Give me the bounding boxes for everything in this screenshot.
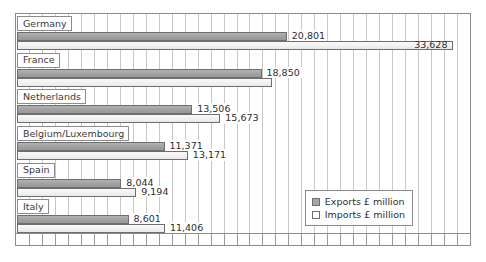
axis-tick xyxy=(55,234,56,245)
axis-tick xyxy=(431,234,432,245)
bar-exports xyxy=(17,32,287,41)
bar-chart: Germany20,80133,628France18,850Netherlan… xyxy=(0,0,486,262)
axis-tick xyxy=(262,234,263,245)
axis-tick xyxy=(159,234,160,245)
bar-imports xyxy=(17,151,188,160)
legend-swatch-imports-icon xyxy=(312,211,320,219)
bar-exports xyxy=(17,215,129,224)
axis-tick xyxy=(249,234,250,245)
legend-swatch-exports-icon xyxy=(312,198,320,206)
value-label-imports: 13,171 xyxy=(190,149,228,161)
bar-exports xyxy=(17,105,192,114)
axis-tick xyxy=(379,234,380,245)
value-label-imports: 9,194 xyxy=(138,186,170,198)
legend-label-imports: Imports £ million xyxy=(325,210,405,220)
legend-item-exports: Exports £ million xyxy=(312,195,405,208)
axis-tick xyxy=(457,234,458,245)
legend-item-imports: Imports £ million xyxy=(312,208,405,221)
axis-tick xyxy=(120,234,121,245)
bar-group: France18,850 xyxy=(16,51,470,88)
axis-tick xyxy=(340,234,341,245)
axis-tick xyxy=(68,234,69,245)
axis-tick xyxy=(392,234,393,245)
plot-area: Germany20,80133,628France18,850Netherlan… xyxy=(15,13,471,246)
axis-tick xyxy=(301,234,302,245)
bar-exports xyxy=(17,69,262,78)
value-label-exports: 20,801 xyxy=(289,30,327,42)
axis-tick xyxy=(42,234,43,245)
axis-tick xyxy=(185,234,186,245)
category-label: Netherlands xyxy=(17,89,86,104)
axis-tick-row xyxy=(16,233,470,245)
bar-exports xyxy=(17,179,121,188)
axis-tick xyxy=(353,234,354,245)
bar-imports xyxy=(17,78,272,87)
axis-tick xyxy=(275,234,276,245)
category-label: Spain xyxy=(17,163,55,178)
axis-tick xyxy=(198,234,199,245)
category-label: Germany xyxy=(17,16,72,31)
category-label: Italy xyxy=(17,199,49,214)
value-label-imports: 15,673 xyxy=(222,112,260,124)
axis-tick xyxy=(172,234,173,245)
legend-label-exports: Exports £ million xyxy=(325,197,405,207)
bar-exports xyxy=(17,142,165,151)
bar-group: Netherlands13,50615,673 xyxy=(16,87,470,124)
value-label-exports: 18,850 xyxy=(264,67,302,79)
axis-tick xyxy=(405,234,406,245)
value-label-exports: 8,601 xyxy=(131,213,163,225)
bar-group: Belgium/Luxembourg11,37113,171 xyxy=(16,124,470,161)
axis-tick xyxy=(211,234,212,245)
axis-tick xyxy=(94,234,95,245)
axis-tick xyxy=(327,234,328,245)
axis-tick xyxy=(107,234,108,245)
axis-tick xyxy=(418,234,419,245)
chart-legend: Exports £ million Imports £ million xyxy=(305,190,413,226)
axis-tick xyxy=(314,234,315,245)
axis-tick xyxy=(288,234,289,245)
bar-imports xyxy=(17,188,136,197)
axis-tick xyxy=(29,234,30,245)
axis-tick xyxy=(444,234,445,245)
bar-imports xyxy=(17,114,220,123)
value-label-imports: 33,628 xyxy=(411,39,449,51)
bar-group: Germany20,80133,628 xyxy=(16,14,470,51)
category-label: Belgium/Luxembourg xyxy=(17,126,129,141)
bar-imports xyxy=(17,224,165,233)
axis-tick xyxy=(81,234,82,245)
axis-tick xyxy=(366,234,367,245)
axis-tick xyxy=(146,234,147,245)
axis-tick xyxy=(237,234,238,245)
axis-tick xyxy=(133,234,134,245)
bar-imports xyxy=(17,41,453,50)
axis-tick xyxy=(224,234,225,245)
category-label: France xyxy=(17,53,60,68)
